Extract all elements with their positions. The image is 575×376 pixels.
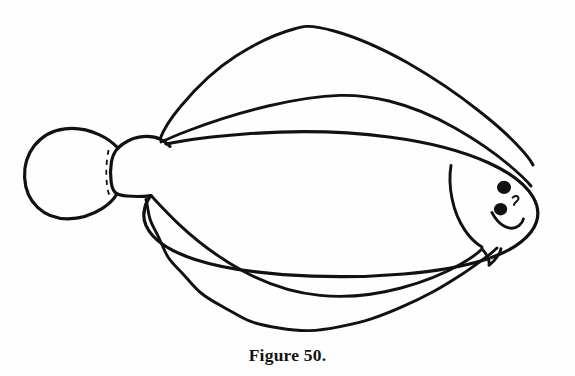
- nostril-mark: [513, 196, 519, 205]
- figure-caption: Figure 50.: [0, 345, 575, 366]
- flatfish-illustration: [0, 0, 575, 376]
- body-outline: [144, 132, 538, 277]
- caudal-fin: [25, 128, 118, 218]
- mouth-line: [492, 213, 523, 228]
- anal-fin-outer-edge: [146, 199, 497, 330]
- figure-page: Figure 50.: [0, 0, 575, 376]
- eye-lower: [494, 203, 507, 215]
- caudal-peduncle: [110, 148, 118, 194]
- anal-fin-inner-edge: [151, 196, 482, 297]
- operculum-line: [450, 165, 482, 247]
- eye-upper: [497, 181, 511, 194]
